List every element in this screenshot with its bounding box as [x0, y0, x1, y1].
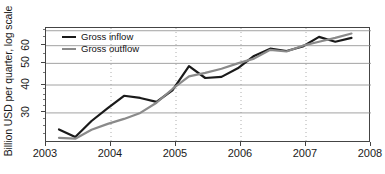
y-axis-tick-mark [41, 84, 45, 85]
chart-legend: Gross inflowGross outflow [62, 31, 170, 55]
x-axis-tick-label: 2003 [22, 147, 68, 160]
y-axis-minor-tick-mark [43, 53, 46, 54]
x-axis-tick-label: 2008 [347, 147, 385, 160]
y-axis-minor-tick-mark [43, 105, 46, 106]
legend-label: Gross outflow [81, 43, 139, 54]
y-axis-tick-mark [41, 44, 45, 45]
y-axis-minor-tick-mark [43, 125, 46, 126]
y-axis-minor-tick-mark [43, 133, 46, 134]
x-axis-tick-label: 2004 [87, 147, 133, 160]
y-axis-minor-tick-mark [43, 88, 46, 89]
chart-figure: Billion USD per quarter, log scale 30405… [0, 0, 385, 174]
y-axis-tick-mark [41, 62, 45, 63]
legend-swatch-icon [62, 36, 76, 38]
x-axis-tick-mark [45, 142, 46, 146]
x-axis-tick-mark [240, 142, 241, 146]
x-axis-tick-mark [305, 142, 306, 146]
y-axis-tick-mark [41, 111, 45, 112]
x-axis-tick-label: 2005 [152, 147, 198, 160]
x-axis-tick-label: 2007 [282, 147, 328, 160]
y-axis-minor-tick-mark [43, 118, 46, 119]
x-axis-tick-label: 2006 [217, 147, 263, 160]
y-axis-tick-label: 30 [16, 98, 34, 126]
legend-label: Gross inflow [81, 31, 133, 42]
y-axis-minor-tick-mark [43, 94, 46, 95]
legend-swatch-icon [62, 48, 76, 50]
y-axis-minor-tick-mark [43, 29, 46, 30]
y-axis-tick-label: 60 [16, 31, 34, 59]
y-axis-minor-tick-mark [43, 99, 46, 100]
x-axis-tick-mark [175, 142, 176, 146]
legend-item: Gross outflow [62, 43, 170, 54]
y-axis-title: Billion USD per quarter, log scale [0, 0, 16, 168]
x-axis-tick-mark [110, 142, 111, 146]
y-axis-minor-tick-mark [43, 36, 46, 37]
legend-item: Gross inflow [62, 31, 170, 42]
x-axis-tick-mark [370, 142, 371, 146]
y-axis-minor-tick-mark [43, 72, 46, 73]
